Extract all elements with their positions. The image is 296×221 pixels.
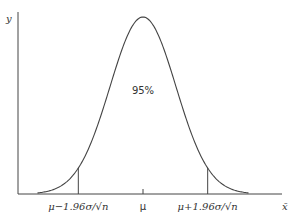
lower-critical-label: μ−1.96σ/√n [48, 201, 108, 212]
area-annotation: 95% [132, 85, 154, 96]
upper-critical-label: μ+1.96σ/√n [178, 201, 238, 212]
y-axis-label: y [5, 13, 12, 24]
normal-curve [37, 17, 248, 193]
x-axis-label: x̄ [282, 201, 288, 212]
normal-distribution-chart: y x̄ μ−1.96σ/√n μ μ+1.96σ/√n 95% [0, 0, 296, 221]
mean-label: μ [140, 201, 147, 212]
